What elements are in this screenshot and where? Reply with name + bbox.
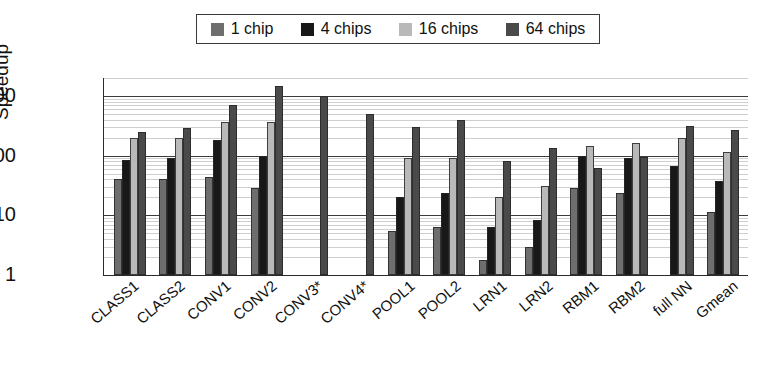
bar	[433, 227, 441, 276]
bar-group	[198, 78, 244, 275]
bar-group	[655, 78, 701, 275]
bar-group	[563, 78, 609, 275]
bar	[388, 231, 396, 275]
bar-group	[244, 78, 290, 275]
bar	[441, 193, 449, 275]
legend-swatch-icon	[399, 23, 412, 36]
bar	[731, 130, 739, 275]
bar	[632, 143, 640, 275]
bar	[487, 227, 495, 276]
bar-group	[153, 78, 199, 275]
bar	[167, 158, 175, 275]
bar	[138, 132, 146, 275]
bar-group	[609, 78, 655, 275]
bar	[495, 197, 503, 275]
bar	[533, 220, 541, 275]
bar	[366, 114, 374, 275]
legend-label: 1 chip	[231, 21, 274, 37]
bar-group	[107, 78, 153, 275]
bar	[624, 158, 632, 275]
legend-label: 16 chips	[419, 21, 479, 37]
bar	[396, 197, 404, 275]
bar	[449, 158, 457, 275]
bar	[594, 168, 602, 275]
y-axis-tick-label: 1	[5, 264, 16, 284]
x-axis-line	[103, 275, 748, 276]
bar-groups	[104, 78, 748, 275]
y-axis-title: Speedup	[0, 44, 13, 120]
bar	[221, 122, 229, 275]
bar	[686, 126, 694, 275]
legend-item: 16 chips	[399, 21, 479, 37]
legend-item: 4 chips	[301, 21, 372, 37]
bar-group	[290, 78, 336, 275]
bar	[320, 96, 328, 275]
bar	[404, 158, 412, 275]
bar-group	[381, 78, 427, 275]
bar	[503, 161, 511, 275]
bar	[275, 86, 283, 275]
bar-group	[426, 78, 472, 275]
x-axis-labels: CLASS1CLASS2CONV1CONV2CONV3*CONV4*POOL1P…	[103, 277, 748, 369]
bar-group	[472, 78, 518, 275]
bar	[412, 127, 420, 275]
bar	[267, 122, 275, 275]
bar	[586, 146, 594, 275]
chart-legend: 1 chip 4 chips 16 chips 64 chips	[196, 14, 600, 44]
legend-item: 64 chips	[506, 21, 586, 37]
legend-swatch-icon	[506, 23, 519, 36]
bar	[541, 186, 549, 275]
bar	[229, 105, 237, 275]
y-axis-tick-label: 1000	[0, 85, 16, 105]
legend-label: 64 chips	[526, 21, 586, 37]
bar	[175, 138, 183, 275]
bar	[570, 188, 578, 275]
y-axis-tick-label: 100	[0, 145, 16, 165]
bar	[723, 152, 731, 275]
bar	[259, 156, 267, 275]
bar	[670, 166, 678, 275]
bar	[616, 193, 624, 275]
bar	[479, 260, 487, 275]
bar	[457, 120, 465, 275]
bar	[715, 181, 723, 275]
y-axis-tick-label: 10	[0, 204, 16, 224]
legend-label: 4 chips	[321, 21, 372, 37]
legend-swatch-icon	[211, 23, 224, 36]
bar	[130, 138, 138, 275]
bar	[678, 138, 686, 275]
bar-group	[335, 78, 381, 275]
legend-swatch-icon	[301, 23, 314, 36]
bar	[159, 179, 167, 275]
legend-item: 1 chip	[211, 21, 274, 37]
bar	[640, 157, 648, 275]
bar	[183, 128, 191, 275]
bar	[205, 177, 213, 275]
bar	[122, 160, 130, 275]
bar	[707, 212, 715, 275]
bar	[114, 179, 122, 275]
bar	[251, 188, 259, 275]
bar	[578, 156, 586, 275]
bar-group	[700, 78, 746, 275]
bar	[549, 148, 557, 275]
bar-group	[518, 78, 564, 275]
bar	[213, 140, 221, 275]
bar	[525, 247, 533, 275]
plot-area	[103, 78, 748, 275]
